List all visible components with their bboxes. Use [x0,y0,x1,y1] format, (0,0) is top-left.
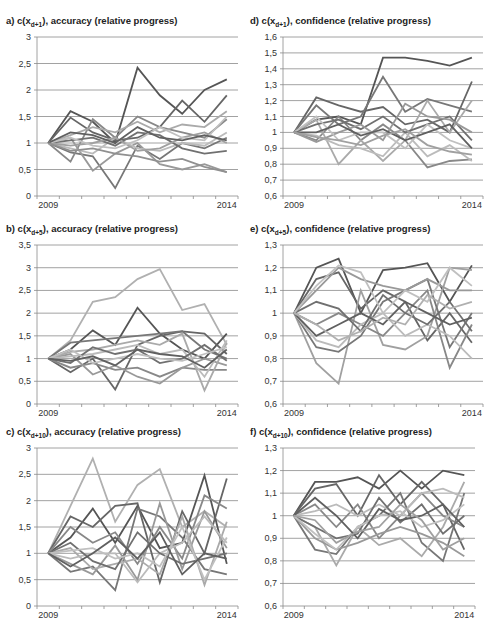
y-tick-label: 1,2 [264,96,277,106]
y-tick-label: 1,6 [264,32,277,42]
y-tick-label: 1,3 [264,443,277,453]
y-tick-label: 1,4 [264,64,277,74]
y-tick-label: 0,9 [264,331,277,341]
x-tick-label-end: 2014 [454,610,474,620]
y-tick-label: 0 [26,191,31,201]
y-tick-label: 1 [272,308,277,318]
y-tick-label: 0,8 [264,159,277,169]
y-tick-label: 0 [26,601,31,611]
x-tick-label-end: 2014 [217,408,237,418]
x-tick-label-start: 2009 [284,408,304,418]
y-tick-label: 3,5 [18,240,31,250]
x-tick-label-end: 2014 [217,610,237,620]
y-tick-label: 1,2 [264,263,277,273]
y-tick-label: 1,1 [264,285,277,295]
y-tick-label: 2 [26,496,31,506]
y-tick-label: 1 [272,127,277,137]
chart-svg: 00,511,522,533,520092014 [0,208,244,418]
y-tick-label: 0,5 [18,376,31,386]
y-tick-label: 1 [26,138,31,148]
y-tick-label: 0,8 [264,354,277,364]
chart-svg: 0,60,70,80,911,11,21,320092014 [244,418,488,628]
chart-svg: 0,60,70,80,911,11,21,31,41,51,620092014 [244,0,488,210]
y-tick-label: 0,5 [18,165,31,175]
panel-d: d) c(xd+1), confidence (relative progres… [244,0,488,210]
y-tick-label: 0 [26,399,31,409]
y-tick-label: 1,2 [264,466,277,476]
x-tick-label-end: 2014 [462,408,482,418]
y-tick-label: 0,7 [264,175,277,185]
x-tick-label-start: 2009 [284,610,304,620]
y-tick-label: 0,6 [264,191,277,201]
y-tick-label: 1,5 [18,522,31,532]
y-tick-label: 0,8 [264,556,277,566]
y-tick-label: 0,7 [264,376,277,386]
chart-svg: 0,60,70,80,911,11,21,320092014 [244,208,488,418]
chart-svg: 00,511,522,5320092014 [0,418,244,628]
y-tick-label: 0,7 [264,578,277,588]
panel-f: f) c(xd+10), confidence (relative progre… [244,418,488,628]
y-tick-label: 1,1 [264,112,277,122]
x-tick-label-start: 2009 [38,408,58,418]
y-tick-label: 1 [26,354,31,364]
y-tick-label: 2,5 [18,59,31,69]
y-tick-label: 2,5 [18,285,31,295]
y-tick-label: 1 [272,511,277,521]
panel-e: e) c(xd+5), confidence (relative progres… [244,208,488,418]
y-tick-label: 1,1 [264,488,277,498]
y-tick-label: 0,6 [264,399,277,409]
chart-svg: 00,511,522,5320092014 [0,0,244,210]
y-tick-label: 3 [26,32,31,42]
y-tick-label: 0,9 [264,143,277,153]
panel-c: c) c(xd+10), accuracy (relative progress… [0,418,244,628]
y-tick-label: 0,9 [264,533,277,543]
y-tick-label: 2 [26,308,31,318]
y-tick-label: 1 [26,548,31,558]
y-tick-label: 0,6 [264,601,277,611]
y-tick-label: 1,5 [264,48,277,58]
y-tick-label: 3 [26,443,31,453]
y-tick-label: 2 [26,85,31,95]
panel-a: a) c(xd+1), accuracy (relative progress)… [0,0,244,210]
y-tick-label: 0,5 [18,575,31,585]
y-tick-label: 3 [26,263,31,273]
y-tick-label: 1,5 [18,112,31,122]
y-tick-label: 1,5 [18,331,31,341]
y-tick-label: 1,3 [264,240,277,250]
x-tick-label-start: 2009 [38,610,58,620]
y-tick-label: 2,5 [18,469,31,479]
y-tick-label: 1,3 [264,80,277,90]
panel-b: b) c(xd+5), accuracy (relative progress)… [0,208,244,418]
